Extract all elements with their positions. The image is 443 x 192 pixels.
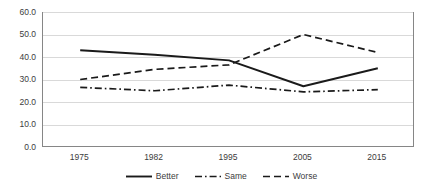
legend-entry-better[interactable]: Better — [126, 171, 179, 181]
legend-label: Better — [156, 171, 179, 181]
y-axis-tick-label: 50.0 — [2, 30, 36, 39]
y-axis-tick-label: 10.0 — [2, 120, 36, 129]
plot-area — [42, 12, 414, 147]
legend-swatch-same-icon — [195, 172, 221, 181]
chart-legend: BetterSameWorse — [0, 168, 443, 184]
legend-entry-worse[interactable]: Worse — [263, 171, 317, 181]
x-axis-tick-label: 1982 — [124, 152, 184, 162]
y-axis-tick-label: 20.0 — [2, 98, 36, 107]
y-axis-tick-label: 60.0 — [2, 8, 36, 17]
legend-label: Same — [225, 171, 247, 181]
series-lines — [43, 12, 415, 147]
x-axis-tick-label: 2015 — [347, 152, 407, 162]
y-axis-tick-label: 30.0 — [2, 75, 36, 84]
series-line-better — [80, 50, 378, 86]
legend-label: Worse — [293, 171, 317, 181]
legend-entry-same[interactable]: Same — [195, 171, 247, 181]
x-axis-tick-label: 1995 — [198, 152, 258, 162]
line-chart: 60.050.040.030.020.010.00.0 197519821995… — [0, 0, 443, 192]
y-axis-tick-label: 40.0 — [2, 53, 36, 62]
legend-swatch-better-icon — [126, 172, 152, 181]
y-axis-tick-label: 0.0 — [2, 143, 36, 152]
x-axis-tick-label: 1975 — [49, 152, 109, 162]
x-axis-tick-label: 2005 — [272, 152, 332, 162]
series-line-worse — [80, 35, 378, 80]
legend-swatch-worse-icon — [263, 172, 289, 181]
series-line-same — [80, 85, 378, 92]
